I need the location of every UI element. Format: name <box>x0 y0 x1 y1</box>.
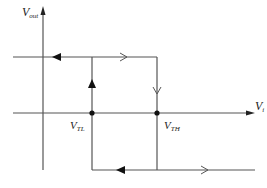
left-arrow-bottom-icon <box>116 166 125 174</box>
x-axis-label: Vi <box>255 99 264 114</box>
up-arrow-vtl-icon <box>88 79 96 88</box>
vtl-point <box>89 110 94 115</box>
x-axis-arrow-icon <box>246 111 255 116</box>
axes <box>13 10 250 170</box>
vth-label: VTH <box>164 119 181 133</box>
left-arrow-top-icon <box>52 53 61 61</box>
vtl-label: VTL <box>70 119 85 133</box>
hysteresis-diagram: Vout Vi VTL VTH <box>0 0 267 188</box>
y-axis-label: Vout <box>22 5 39 20</box>
vth-point <box>154 110 159 115</box>
y-axis-arrow-icon <box>41 6 46 15</box>
